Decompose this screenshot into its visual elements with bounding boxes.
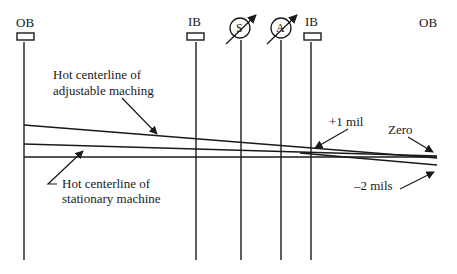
zero-arrow	[408, 137, 433, 152]
ib-2-label: IB	[305, 14, 318, 29]
ib-1-bearing-box	[187, 33, 204, 40]
left-ob-label: OB	[16, 15, 34, 30]
zero-label: Zero	[388, 122, 413, 137]
adjustable-machine-centerline	[24, 125, 437, 158]
centerlines	[24, 125, 437, 165]
minus-two-mils-label: –2 mils	[353, 178, 393, 193]
ib-2-bearing-box	[304, 33, 321, 40]
minus-two-mils-arrow	[400, 172, 434, 189]
adjustable-callout-line1: Hot centerline of	[53, 67, 142, 82]
right-ob-label: OB	[419, 15, 437, 30]
plus-one-mil-label: +1 mil	[329, 114, 364, 129]
stationary-callout-line2: stationary machine	[62, 191, 161, 206]
a-gauge-label: A	[276, 21, 285, 35]
adjustable-callout-line2: adjustable maching	[53, 83, 154, 98]
stationary-machine-centerline	[24, 144, 437, 156]
plus-one-mil-arrow	[315, 129, 348, 148]
s-gauge-label: S	[236, 21, 243, 35]
left-ob-bearing-box	[17, 33, 34, 40]
adjustable-callout-arrow	[122, 98, 157, 134]
alignment-diagram: OB IB IB OB S A Hot centerline of adjust…	[0, 0, 457, 274]
ib-1-label: IB	[188, 14, 201, 29]
stationary-callout-line1: Hot centerline of	[62, 176, 151, 191]
